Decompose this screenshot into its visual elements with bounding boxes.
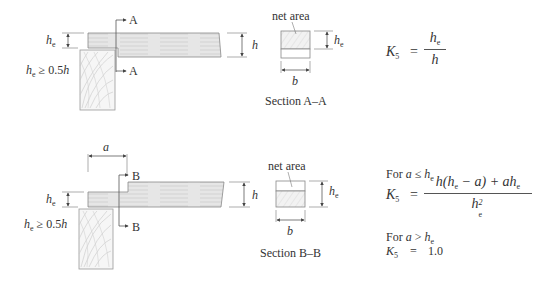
bottom-dim-h (229, 182, 250, 207)
bottom-label-a: a (103, 141, 109, 153)
top-formula-equals: = (410, 45, 418, 59)
top-label-he: he (46, 34, 56, 49)
section-b-caption: Section B–B (260, 247, 321, 259)
top-label-h: h (252, 39, 258, 51)
section-marker-b-top: B (132, 170, 140, 182)
section-b-label-b: b (287, 225, 293, 237)
top-formula-denominator: h (424, 52, 446, 68)
bottom-dim-a (88, 154, 127, 176)
bottom-formula-denominator: h2e (424, 196, 532, 212)
top-formula-lhs: K5 (386, 45, 399, 61)
top-formula-fraction: he h (424, 30, 446, 68)
bottom-label-h: h (252, 189, 258, 201)
section-marker-a-bottom: A (129, 65, 138, 77)
bottom-formula-fraction: h(he − a) + ahe h2e (424, 174, 532, 212)
diagram-canvas (0, 0, 538, 282)
bottom-formula-equals: = (410, 188, 418, 202)
fraction-bar (424, 49, 446, 50)
fraction-bar (424, 193, 532, 194)
formula-case2-value: 1.0 (428, 245, 443, 257)
formula-case2-equals: = (410, 245, 417, 257)
bottom-notched-beam (88, 182, 224, 207)
section-a-label-he: he (334, 34, 344, 49)
bottom-formula-lhs: K5 (386, 188, 399, 204)
section-marker-b-bottom: B (132, 221, 140, 233)
section-b-b (276, 172, 328, 222)
bottom-label-he: he (46, 193, 56, 208)
bottom-support-post (79, 209, 113, 269)
section-b-label-he: he (329, 185, 339, 200)
top-support-post (80, 50, 115, 110)
bottom-dim-he (62, 192, 84, 207)
section-b-net-area-label: net area (268, 160, 306, 172)
section-marker-a-top: A (129, 14, 138, 26)
section-a-label-b: b (292, 75, 298, 87)
section-a-a (281, 22, 333, 73)
top-condition-label: he ≥ 0.5h (26, 64, 69, 79)
top-dim-he (62, 33, 84, 48)
bottom-formula-numerator: h(he − a) + ahe (424, 174, 532, 191)
top-formula-numerator: he (424, 30, 446, 47)
section-a-caption: Section A–A (265, 95, 327, 107)
formula-case2-lhs: K5 (386, 245, 398, 260)
top-dim-h (227, 33, 247, 57)
bottom-condition-label: he ≥ 0.5h (24, 218, 67, 233)
section-a-net-area-label: net area (272, 10, 310, 22)
